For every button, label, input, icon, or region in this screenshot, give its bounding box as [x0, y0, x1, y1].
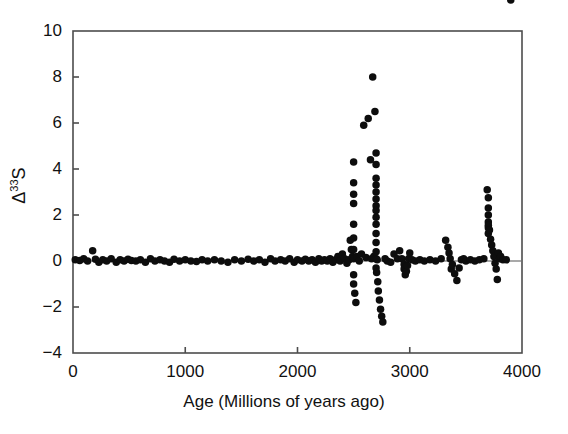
data-point	[371, 108, 379, 116]
y-tick-label-0: 0	[0, 251, 62, 271]
scatter-plot-figure: −4−2024681001000200030004000 Age (Millio…	[0, 0, 568, 434]
x-tick-label-3000: 3000	[391, 362, 429, 382]
data-point-series	[72, 0, 515, 326]
y-axis-title-element: S	[9, 167, 29, 179]
data-point	[355, 257, 363, 265]
data-point	[372, 230, 380, 238]
data-point	[483, 186, 491, 194]
data-point	[437, 255, 445, 263]
data-point	[486, 226, 494, 234]
y-tick-label-6: 6	[0, 113, 62, 133]
data-point	[372, 174, 380, 182]
data-point	[372, 214, 380, 222]
data-point	[231, 256, 239, 264]
data-point	[373, 269, 381, 277]
data-point	[84, 257, 92, 265]
data-point	[442, 237, 450, 245]
data-point	[372, 195, 380, 203]
y-tick-label-8: 8	[0, 67, 62, 87]
data-point	[372, 149, 380, 157]
data-point	[350, 246, 358, 254]
data-point	[350, 280, 358, 288]
data-point	[485, 211, 493, 219]
data-point	[350, 191, 358, 199]
data-point	[350, 271, 358, 279]
data-point	[485, 204, 493, 212]
data-point	[374, 278, 382, 286]
data-point	[507, 0, 515, 4]
data-point	[369, 73, 377, 81]
data-point	[350, 158, 358, 166]
data-point	[89, 247, 97, 255]
data-point	[480, 255, 488, 263]
y-tick-label--2: −2	[0, 297, 62, 317]
data-point	[492, 265, 500, 273]
data-point	[372, 161, 380, 169]
axis-frame	[73, 31, 522, 353]
data-point	[372, 181, 380, 189]
data-point	[372, 239, 380, 247]
data-point	[387, 258, 395, 266]
data-point	[224, 258, 232, 266]
data-point	[352, 299, 360, 307]
data-point	[350, 234, 358, 242]
tick-marks	[73, 77, 410, 353]
plot-frame-rect	[73, 31, 522, 353]
data-point	[204, 257, 212, 265]
data-point	[503, 256, 511, 264]
data-point	[494, 276, 502, 284]
data-point	[455, 264, 463, 272]
data-point	[372, 220, 380, 228]
data-point	[453, 277, 461, 285]
data-point	[485, 194, 493, 202]
x-axis-title: Age (Millions of years ago)	[0, 392, 568, 412]
x-tick-label-0: 0	[68, 362, 77, 382]
y-axis-title: Δ33S	[9, 136, 30, 236]
data-point	[379, 318, 387, 326]
x-tick-label-1000: 1000	[166, 362, 204, 382]
data-point	[449, 261, 457, 269]
data-point	[350, 220, 358, 228]
x-tick-label-2000: 2000	[279, 362, 317, 382]
data-point	[217, 257, 225, 265]
x-tick-label-4000: 4000	[503, 362, 541, 382]
y-axis-title-mass-number: 33	[8, 179, 20, 191]
data-point	[372, 188, 380, 196]
data-point	[375, 287, 383, 295]
data-point	[372, 207, 380, 215]
data-point	[360, 122, 368, 130]
data-point	[350, 179, 358, 187]
y-axis-title-delta: Δ	[9, 192, 29, 204]
data-point	[377, 306, 385, 314]
y-tick-label--4: −4	[0, 343, 62, 363]
data-point	[396, 247, 404, 255]
data-point	[372, 248, 380, 256]
data-point	[238, 257, 246, 265]
data-point	[376, 296, 384, 304]
data-point	[364, 115, 372, 123]
data-point	[351, 289, 359, 297]
data-point	[211, 256, 219, 264]
data-point	[373, 256, 381, 264]
data-point	[406, 249, 414, 257]
data-point	[350, 200, 358, 208]
y-tick-label-10: 10	[0, 21, 62, 41]
